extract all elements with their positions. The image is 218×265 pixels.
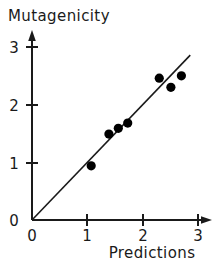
data-point-group [87,71,186,170]
y-tick-label-1: 1 [9,155,19,173]
scatter-plot-figure: Mutagenicity 3 2 1 0 0 1 2 3 Predictions [0,0,218,265]
x-tick-label-0: 0 [27,227,37,245]
data-point [87,161,96,170]
data-point [177,71,186,80]
y-tick-label-0: 0 [9,212,19,230]
x-axis-title: Predictions [109,244,196,262]
y-tick-label-2: 2 [9,97,19,115]
data-point [166,83,175,92]
data-point [114,124,123,133]
y-axis-arrow-icon [28,30,36,41]
data-point [104,129,113,138]
x-axis-arrow-icon [201,216,212,224]
plot-canvas: Mutagenicity 3 2 1 0 0 1 2 3 Predictions [0,0,218,265]
y-tick-label-3: 3 [9,39,19,57]
x-tick-label-3: 3 [193,227,203,245]
x-tick-label-2: 2 [138,227,148,245]
y-axis-title: Mutagenicity [8,7,110,25]
x-tick-label-1: 1 [82,227,92,245]
data-point [123,119,132,128]
data-point [155,74,164,83]
